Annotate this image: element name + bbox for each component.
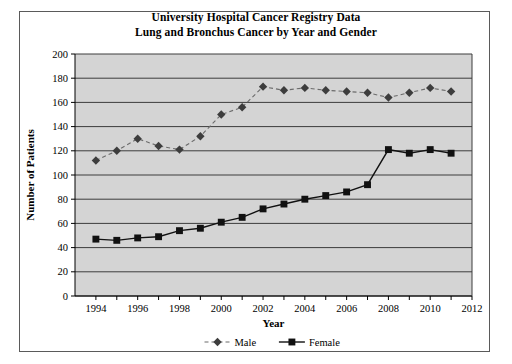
x-tick-label: 2012: [462, 303, 483, 314]
y-tick-label: 180: [52, 73, 68, 84]
data-point-marker: [197, 225, 204, 232]
x-tick-label: 2002: [253, 303, 274, 314]
data-point-marker: [301, 196, 308, 203]
y-axis-ticks: [71, 54, 75, 296]
data-point-marker: [448, 150, 455, 157]
data-point-marker: [427, 146, 434, 153]
x-tick-label: 2000: [211, 303, 232, 314]
data-point-marker: [134, 234, 141, 241]
y-tick-label: 40: [58, 242, 69, 253]
data-point-marker: [155, 233, 162, 240]
y-tick-label: 0: [63, 291, 68, 302]
data-point-marker: [260, 205, 267, 212]
data-point-marker: [113, 237, 120, 244]
x-tick-label: 2004: [294, 303, 316, 314]
data-point-marker: [218, 219, 225, 226]
x-tick-label: 2008: [378, 303, 399, 314]
data-point-marker: [343, 188, 350, 195]
legend-item-male[interactable]: Male: [205, 337, 257, 348]
data-point-marker: [213, 338, 221, 346]
x-axis-title: Year: [263, 317, 285, 329]
y-tick-label: 140: [52, 121, 68, 132]
x-tick-label: 1996: [127, 303, 148, 314]
y-axis-tick-labels: 020406080100120140160180200: [52, 49, 68, 302]
x-axis-tick-labels: 1994199619982000200220042006200820102012: [85, 303, 482, 314]
y-tick-label: 120: [52, 145, 68, 156]
data-point-marker: [281, 201, 288, 208]
chart-plot-container: 020406080100120140160180200 199419961998…: [0, 0, 512, 364]
y-tick-label: 20: [58, 266, 69, 277]
line-chart-svg: 020406080100120140160180200 199419961998…: [0, 0, 512, 364]
data-point-marker: [176, 227, 183, 234]
x-tick-label: 2006: [336, 303, 357, 314]
x-tick-label: 1994: [85, 303, 107, 314]
data-point-marker: [322, 192, 329, 199]
x-tick-label: 2010: [420, 303, 441, 314]
legend-label: Male: [235, 337, 257, 348]
legend-item-female[interactable]: Female: [279, 337, 340, 348]
y-tick-label: 60: [58, 218, 69, 229]
y-axis-title: Number of Patients: [24, 129, 36, 221]
data-point-marker: [406, 150, 413, 157]
legend-label: Female: [309, 337, 340, 348]
data-point-marker: [364, 181, 371, 188]
y-tick-label: 160: [52, 97, 68, 108]
y-tick-label: 80: [58, 194, 69, 205]
chart-legend: MaleFemale: [205, 337, 341, 348]
y-tick-label: 200: [52, 49, 68, 60]
data-point-marker: [385, 146, 392, 153]
x-tick-label: 1998: [169, 303, 190, 314]
data-point-marker: [288, 339, 295, 346]
data-point-marker: [92, 236, 99, 243]
x-axis-ticks: [96, 296, 472, 300]
data-point-marker: [239, 214, 246, 221]
y-tick-label: 100: [52, 170, 68, 181]
